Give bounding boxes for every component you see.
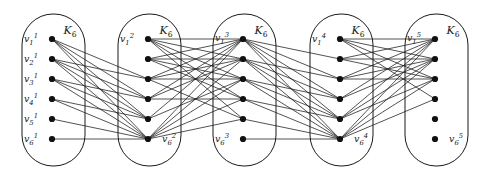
vertex-label-v11: v11 — [24, 32, 38, 47]
graph-edge — [243, 39, 340, 79]
graph-edge — [243, 59, 340, 99]
graph-vertex-b2-v4 — [145, 96, 151, 102]
graph-edge — [52, 99, 148, 139]
graph-edge — [52, 59, 148, 99]
graph-vertex-b5-v4 — [432, 96, 438, 102]
graph-vertex-b1-v1 — [49, 36, 55, 42]
graph-edge — [340, 59, 435, 139]
graph-vertex-b2-v6 — [145, 136, 151, 142]
graph-edge — [243, 99, 340, 119]
k6-title-4: K6 — [350, 24, 364, 39]
graph-vertex-b2-v1 — [145, 36, 151, 42]
graph-vertex-b3-v4 — [240, 96, 246, 102]
vertex-label-v61: v61 — [24, 132, 38, 147]
graph-vertex-b3-v5 — [240, 116, 246, 122]
graph-vertex-b1-v4 — [49, 96, 55, 102]
graph-edge — [243, 99, 340, 139]
graph-vertex-b4-v4 — [337, 96, 343, 102]
graph-edge — [148, 39, 243, 139]
vertex-label-v63: v63 — [215, 132, 229, 147]
graph-edge — [243, 119, 340, 139]
graph-vertex-b4-v6 — [337, 136, 343, 142]
graph-edge — [52, 59, 148, 79]
vertex-label-v31: v31 — [24, 72, 38, 87]
graph-edge — [340, 79, 435, 139]
graph-edge — [243, 79, 340, 119]
vertex-layer — [49, 36, 438, 142]
k6-title-5: K6 — [445, 24, 459, 39]
graph-edge — [52, 79, 148, 119]
graph-vertex-b2-v3 — [145, 76, 151, 82]
k6-title-1: K6 — [62, 24, 76, 39]
label-layer: K6v11v21v31v41v51v61K6v12v62K6v13v63K6v1… — [24, 24, 463, 147]
graph-vertex-b2-v2 — [145, 56, 151, 62]
k6-title-3: K6 — [253, 24, 267, 39]
graph-edge — [52, 79, 148, 99]
graph-vertex-b1-v2 — [49, 56, 55, 62]
vertex-label-v41: v41 — [24, 92, 38, 107]
edge-bundle-1-2 — [52, 39, 148, 139]
graph-vertex-b5-v2 — [432, 56, 438, 62]
vertex-label-v21: v21 — [24, 52, 38, 67]
graph-vertex-b1-v3 — [49, 76, 55, 82]
graph-vertex-b2-v5 — [145, 116, 151, 122]
graph-vertex-b5-v6 — [432, 136, 438, 142]
graph-vertex-b4-v1 — [337, 36, 343, 42]
graph-vertex-b5-v5 — [432, 116, 438, 122]
edge-layer — [52, 39, 435, 139]
graph-edge — [52, 39, 148, 79]
vertex-label-v62: v62 — [162, 132, 176, 147]
graph-vertex-b5-v3 — [432, 76, 438, 82]
graph-diagram-canvas: K6v11v21v31v41v51v61K6v12v62K6v13v63K6v1… — [0, 0, 478, 178]
edge-bundle-2-3 — [148, 39, 243, 139]
vertex-label-v13: v13 — [215, 31, 229, 46]
vertex-label-v51: v51 — [24, 112, 38, 127]
graph-edge — [52, 119, 148, 139]
graph-vertex-b3-v1 — [240, 36, 246, 42]
vertex-label-v15: v15 — [407, 31, 421, 46]
k6-title-2: K6 — [158, 24, 172, 39]
vertex-label-v14: v14 — [312, 32, 326, 47]
graph-vertex-b3-v3 — [240, 76, 246, 82]
graph-edge — [52, 99, 148, 119]
vertex-label-v64: v64 — [354, 132, 368, 147]
vertex-label-v12: v12 — [120, 32, 134, 47]
graph-edge — [243, 79, 340, 99]
graph-edge — [243, 39, 340, 59]
edge-bundle-4-5 — [340, 39, 435, 139]
graph-edge — [148, 79, 243, 139]
graph-vertex-b4-v5 — [337, 116, 343, 122]
graph-vertex-b4-v2 — [337, 56, 343, 62]
graph-vertex-b1-v6 — [49, 136, 55, 142]
edge-bundle-3-4 — [243, 39, 340, 139]
graph-vertex-b3-v6 — [240, 136, 246, 142]
graph-edge — [243, 59, 340, 79]
graph-vertex-b1-v5 — [49, 116, 55, 122]
graph-vertex-b3-v2 — [240, 56, 246, 62]
graph-diagram-svg: K6v11v21v31v41v51v61K6v12v62K6v13v63K6v1… — [0, 0, 478, 178]
graph-vertex-b5-v1 — [432, 36, 438, 42]
graph-edge — [340, 39, 435, 139]
vertex-label-v65: v65 — [449, 132, 463, 147]
graph-vertex-b4-v3 — [337, 76, 343, 82]
